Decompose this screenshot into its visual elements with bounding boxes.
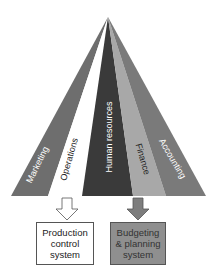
arrow-down-icon [56, 198, 78, 220]
production-control-system-label: Production control system [42, 227, 87, 260]
functional-pyramid: Marketing Operations Human resources Fin… [0, 0, 216, 279]
label-human-resources: Human resources [104, 101, 114, 173]
production-control-system-box: Production control system [36, 222, 94, 265]
arrow-down-icon [127, 198, 149, 220]
budgeting-planning-system-label: Budgeting & planning system [116, 227, 161, 260]
budgeting-planning-system-box: Budgeting & planning system [110, 222, 166, 265]
